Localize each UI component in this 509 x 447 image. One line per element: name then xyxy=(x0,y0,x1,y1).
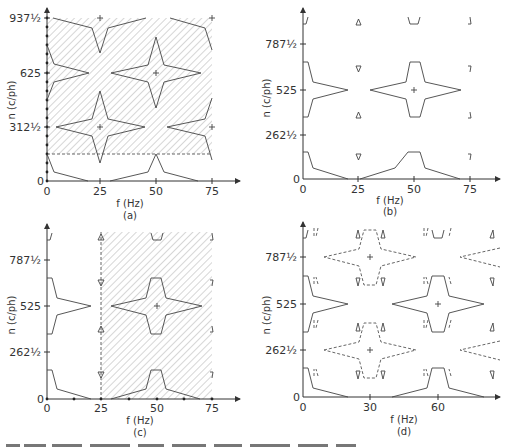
xlabel-b: f (Hz) xyxy=(376,195,403,206)
spectrum-outlines-solid xyxy=(303,230,484,397)
xtick-d-2: 60 xyxy=(431,401,445,414)
xtick-b-2: 50 xyxy=(407,183,421,196)
panel-d xyxy=(300,222,500,400)
xtick-a-0: 0 xyxy=(44,185,51,198)
xtick-d-1: 30 xyxy=(363,401,377,414)
ytick-a-2: 625 xyxy=(20,67,41,80)
xtick-a-2: 50 xyxy=(149,185,163,198)
hatched-region xyxy=(47,18,212,154)
xtick-b-3: 75 xyxy=(463,183,477,196)
spectrum-outlines xyxy=(303,17,471,179)
ytick-b-2: 525 xyxy=(276,84,297,97)
figure-canvas: 0 312½ 625 937½ 0 25 50 75 f (Hz) (a) n … xyxy=(0,0,509,447)
xlabel-c: f (Hz) xyxy=(126,415,153,426)
panel-a xyxy=(44,8,240,184)
ytick-a-1: 312½ xyxy=(9,121,41,134)
ytick-c-2: 525 xyxy=(20,300,41,313)
ylabel-a: n (c/ph) xyxy=(6,80,17,119)
hatched-region xyxy=(101,232,212,399)
ytick-d-1: 262½ xyxy=(265,344,297,357)
ylabel-c: n (c/ph) xyxy=(6,295,17,334)
panel-label-b: (b) xyxy=(383,206,397,217)
xlabel-d: f (Hz) xyxy=(390,414,417,425)
xtick-d-0: 0 xyxy=(300,401,307,414)
ytick-d-3: 787½ xyxy=(265,251,297,264)
ytick-a-3: 937½ xyxy=(9,12,41,25)
ylabel-b: n (c/ph) xyxy=(261,78,272,117)
xtick-b-0: 0 xyxy=(300,183,307,196)
xtick-a-1: 25 xyxy=(93,185,107,198)
xtick-c-3: 75 xyxy=(205,402,219,415)
ylabel-d: n (c/ph) xyxy=(261,295,272,334)
xtick-c-0: 0 xyxy=(44,402,51,415)
ytick-c-1: 262½ xyxy=(9,346,41,359)
ytick-b-1: 262½ xyxy=(265,129,297,142)
xtick-c-2: 50 xyxy=(150,402,164,415)
xtick-b-1: 25 xyxy=(351,183,365,196)
panel-b xyxy=(300,8,500,182)
panel-c xyxy=(44,224,240,400)
xlabel-a: f (Hz) xyxy=(116,198,143,209)
triangle-markers xyxy=(356,230,494,379)
ytick-b-3: 787½ xyxy=(265,38,297,51)
xtick-c-1: 25 xyxy=(94,402,108,415)
panel-label-c: (c) xyxy=(133,427,146,438)
panel-label-a: (a) xyxy=(123,210,137,221)
xtick-a-3: 75 xyxy=(205,185,219,198)
ytick-c-3: 787½ xyxy=(9,254,41,267)
panel-label-d: (d) xyxy=(397,426,411,437)
ytick-d-2: 525 xyxy=(276,298,297,311)
